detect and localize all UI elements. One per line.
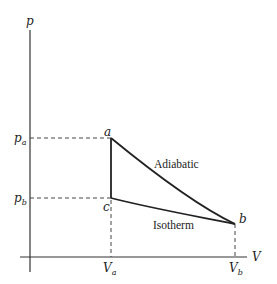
point-b-label: b bbox=[239, 212, 247, 226]
tick-pa: pa bbox=[14, 131, 27, 147]
tick-va: Va bbox=[103, 261, 117, 277]
v-axis-label: V bbox=[252, 250, 262, 264]
isotherm-label: Isotherm bbox=[153, 219, 194, 231]
point-c-label: c bbox=[103, 200, 110, 214]
pv-diagram: p V a b c pa pb Va Vb Adiabatic Isotherm bbox=[0, 0, 277, 284]
adiabatic-label: Adiabatic bbox=[154, 158, 199, 170]
process-curves bbox=[111, 138, 235, 224]
tick-vb: Vb bbox=[229, 261, 243, 277]
tick-pb: pb bbox=[14, 191, 27, 207]
p-axis-label: p bbox=[26, 14, 34, 28]
point-a-label: a bbox=[104, 125, 111, 139]
